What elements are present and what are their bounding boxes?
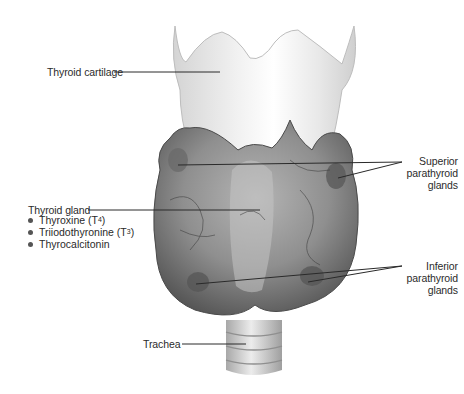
label-trachea: Trachea — [143, 338, 180, 350]
bullet-icon — [28, 230, 33, 235]
hormone-item-triiodothyronine: Triiodothyronine (T3) — [28, 226, 134, 238]
hormone-list: Thyroxine (T4) Triiodothyronine (T3) Thy… — [28, 214, 134, 250]
label-thyroid-cartilage: Thyroid cartilage — [47, 66, 123, 78]
label-superior-parathyroid: Superior parathyroid glands — [404, 155, 458, 191]
label-inferior-parathyroid: Inferior parathyroid glands — [404, 260, 458, 296]
hormone-item-thyroxine: Thyroxine (T4) — [28, 214, 134, 226]
thyroid-gland-shape — [154, 120, 359, 315]
bullet-icon — [28, 218, 33, 223]
hormone-item-thyrocalcitonin: Thyrocalcitonin — [28, 238, 134, 250]
anatomy-illustration — [0, 0, 464, 394]
thyroid-diagram: Thyroid cartilage Thyroid gland Thyroxin… — [0, 0, 464, 394]
bullet-icon — [28, 242, 33, 247]
trachea-shape — [226, 320, 282, 375]
